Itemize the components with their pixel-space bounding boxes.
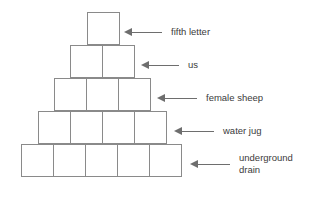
pyramid-cell[interactable] <box>87 12 120 45</box>
pyramid-cell[interactable] <box>86 78 119 111</box>
arrow-left-icon <box>190 160 230 168</box>
arrow-left-icon <box>174 127 214 135</box>
clue-row-4: water jug <box>174 121 262 141</box>
pyramid-cell[interactable] <box>85 144 118 177</box>
arrow-left-icon <box>157 94 197 102</box>
pyramid-cell[interactable] <box>21 144 54 177</box>
pyramid-cell[interactable] <box>70 111 103 144</box>
pyramid-cell[interactable] <box>117 144 150 177</box>
clue-label-3: female sheep <box>206 92 263 104</box>
pyramid-cell[interactable] <box>54 78 87 111</box>
pyramid-row-3 <box>54 78 151 111</box>
clue-label-5: underground drain <box>239 152 293 176</box>
clue-row-5: underground drain <box>190 154 293 174</box>
clue-label-1: fifth letter <box>171 26 210 38</box>
pyramid-cell[interactable] <box>118 78 151 111</box>
pyramid-cell[interactable] <box>70 45 103 78</box>
pyramid-row-5 <box>21 144 182 177</box>
pyramid-cell[interactable] <box>149 144 182 177</box>
clue-row-3: female sheep <box>157 88 263 108</box>
pyramid-row-1 <box>87 12 120 45</box>
pyramid-cell[interactable] <box>102 45 135 78</box>
clue-row-2: us <box>141 55 198 75</box>
pyramid-row-2 <box>70 45 135 78</box>
pyramid-cell[interactable] <box>53 144 86 177</box>
clue-label-4: water jug <box>223 125 262 137</box>
arrow-left-icon <box>141 61 179 69</box>
word-pyramid-diagram: fifth letter us female sheep water jug u… <box>0 0 330 197</box>
pyramid-cell[interactable] <box>102 111 135 144</box>
pyramid-cell[interactable] <box>38 111 71 144</box>
arrow-left-icon <box>124 28 162 36</box>
clue-label-2: us <box>188 59 198 71</box>
pyramid-cell[interactable] <box>134 111 167 144</box>
pyramid-row-4 <box>38 111 167 144</box>
clue-row-1: fifth letter <box>124 22 210 42</box>
